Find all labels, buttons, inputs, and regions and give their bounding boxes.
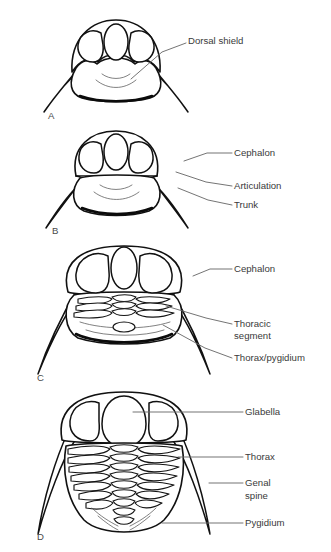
cheek-lobe-left-a [78, 31, 103, 62]
glabella-c [111, 247, 137, 289]
pygidial-axis-c [113, 322, 135, 332]
leader-cephalon-c [193, 269, 232, 276]
glabella-d [102, 396, 146, 447]
panel-c: C Cephalon Thoracic segment Thorax/pygid… [37, 246, 305, 383]
label-dorsal-shield: Dorsal shield [188, 35, 243, 46]
label-cephalon-b: Cephalon [234, 147, 275, 158]
panel-b: B Cephalon Articulation Trunk [46, 131, 281, 236]
leader-cephalon-b [184, 153, 232, 161]
cheek-lobe-right-b [129, 142, 153, 173]
label-thorax: Thorax [245, 451, 275, 462]
panel-a: A Dorsal shield [44, 20, 243, 121]
panel-letter-d: D [37, 531, 44, 542]
label-articulation: Articulation [234, 180, 281, 191]
cheek-lobe-right-a [129, 31, 154, 62]
label-pygidium: Pygidium [245, 517, 284, 528]
leader-articulation [176, 172, 232, 186]
trilobite-figure: A Dorsal shield B Cephalon Articulation … [0, 0, 331, 552]
panel-d: D Glabella Thorax Genal spine Pygidium [37, 392, 284, 542]
figure-canvas: A Dorsal shield B Cephalon Articulation … [0, 0, 331, 552]
label-thoracic-segment-line2: segment [234, 330, 271, 341]
glabella-b [104, 134, 128, 170]
label-genal-spine-line1: Genal [245, 477, 271, 488]
panel-letter-a: A [48, 110, 55, 121]
cheek-lobe-left-b [79, 142, 103, 173]
glabella-a [104, 24, 128, 60]
label-genal-spine-line2: spine [245, 490, 268, 501]
thoracic-segments-c [74, 295, 174, 318]
label-trunk: Trunk [234, 199, 258, 210]
label-thoracic-segment-line1: Thoracic [234, 318, 271, 329]
leader-trunk [178, 188, 232, 205]
panel-letter-b: B [52, 225, 58, 236]
label-glabella: Glabella [245, 406, 281, 417]
label-cephalon-c: Cephalon [234, 263, 275, 274]
label-thorax-pygidium: Thorax/pygidium [234, 352, 305, 363]
panel-letter-c: C [37, 372, 44, 383]
